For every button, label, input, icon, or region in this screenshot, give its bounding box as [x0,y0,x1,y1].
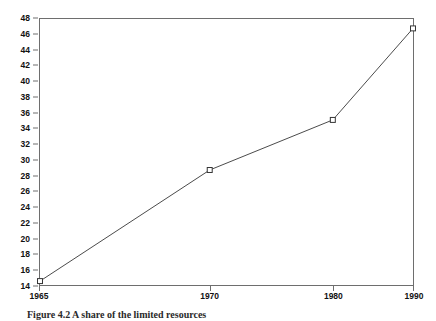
figure-chart: 141618202224262830323436384042444648 196… [0,0,436,321]
data-point-marker [38,279,43,284]
data-point-markers [38,26,416,284]
x-axis-tick-label: 1970 [200,292,219,301]
y-axis-tick-mark [33,65,38,66]
y-axis-tick-mark [33,270,38,271]
plot-area [39,18,414,286]
y-axis-tick-marks [0,18,39,286]
figure-caption-clip: Figure 4.2 A share of the limited resour… [0,310,436,321]
data-point-marker [207,168,212,173]
y-axis-tick-mark [33,238,38,239]
x-axis-tick-label: 1965 [30,292,49,301]
y-axis-tick-mark [33,81,38,82]
y-axis-tick-mark [33,222,38,223]
y-axis-tick-mark [33,286,38,287]
series-line [40,28,413,281]
figure-caption: Figure 4.2 A share of the limited resour… [27,310,206,320]
y-axis-tick-mark [33,33,38,34]
data-point-marker [330,117,335,122]
x-axis-tick-label: 1990 [405,292,424,301]
y-axis-tick-mark [33,96,38,97]
x-axis-tick-label: 1980 [324,292,343,301]
x-axis-tick-labels: 1965197019801990 [39,292,414,304]
data-point-marker [411,26,416,31]
y-axis-tick-mark [33,191,38,192]
y-axis-tick-mark [33,159,38,160]
y-axis-tick-mark [33,207,38,208]
y-axis-tick-mark [33,112,38,113]
line-chart-svg [40,19,413,285]
y-axis-tick-mark [33,18,38,19]
y-axis-tick-mark [33,128,38,129]
y-axis-tick-mark [33,49,38,50]
y-axis-tick-mark [33,144,38,145]
y-axis-tick-mark [33,175,38,176]
y-axis-tick-mark [33,254,38,255]
